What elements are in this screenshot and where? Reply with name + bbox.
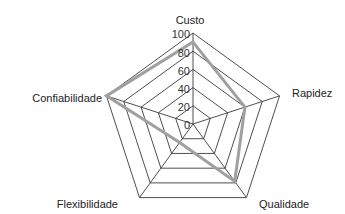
tick-label: 80 bbox=[178, 47, 190, 59]
radar-grid bbox=[106, 33, 279, 198]
axis-label-flexibilidade: Flexibilidade bbox=[57, 198, 118, 210]
radar-chart: 100 80 60 40 20 0 Custo Rapidez Qualidad… bbox=[0, 0, 345, 214]
axis-label-custo: Custo bbox=[176, 14, 205, 26]
tick-label: 40 bbox=[178, 83, 190, 95]
axis-label-qualidade: Qualidade bbox=[259, 198, 309, 210]
radial-tick-labels: 100 80 60 40 20 0 bbox=[172, 28, 190, 131]
tick-label: 20 bbox=[178, 101, 190, 113]
tick-label: 0 bbox=[184, 119, 190, 131]
axis-label-confiabilidade: Confiabilidade bbox=[32, 92, 102, 104]
tick-label: 100 bbox=[172, 28, 190, 40]
grid-spoke bbox=[193, 96, 280, 124]
tick-label: 60 bbox=[178, 65, 190, 77]
axis-label-rapidez: Rapidez bbox=[292, 87, 332, 99]
